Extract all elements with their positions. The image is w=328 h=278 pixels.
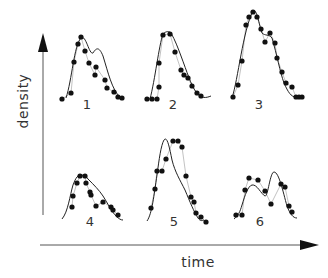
panel-label: 3 (255, 97, 263, 112)
data-point (144, 96, 149, 101)
data-point (115, 212, 120, 217)
data-point (111, 89, 116, 94)
data-point (286, 203, 291, 208)
data-point (272, 40, 277, 45)
data-point (148, 205, 153, 210)
data-point (69, 204, 74, 209)
panel-4: 4 (62, 173, 123, 229)
fit-curve (66, 37, 120, 98)
panel-1: 1 (59, 34, 124, 112)
data-point (246, 14, 251, 19)
data-point (170, 138, 175, 143)
data-point (189, 83, 194, 88)
panel-label: 6 (256, 214, 264, 229)
data-point (71, 59, 76, 64)
plot-canvas: density time 123456 (0, 0, 328, 278)
data-point (243, 22, 248, 27)
fit-curve (234, 172, 297, 219)
data-point (104, 85, 109, 90)
data-point (230, 94, 235, 99)
data-point (154, 96, 159, 101)
data-point (160, 32, 165, 37)
data-point (283, 80, 288, 85)
data-point (289, 84, 294, 89)
data-point (239, 212, 244, 217)
data-point (102, 77, 107, 82)
data-point (267, 30, 272, 35)
data-point (279, 69, 284, 74)
data-point (183, 173, 188, 178)
data-point (198, 214, 203, 219)
data-point (250, 9, 255, 14)
panel-label: 4 (86, 214, 94, 229)
data-point (289, 209, 294, 214)
data-point (239, 58, 244, 63)
data-point (191, 199, 196, 204)
x-axis-label: time (181, 254, 215, 270)
data-point (82, 48, 87, 53)
data-point (154, 168, 159, 173)
data-point (254, 14, 259, 19)
panel-label: 5 (170, 214, 178, 229)
data-point (172, 49, 177, 54)
panel-label: 1 (83, 97, 91, 112)
data-point (246, 175, 251, 180)
data-point (299, 94, 304, 99)
x-axis-arrowhead-icon (300, 240, 319, 250)
data-point (203, 219, 208, 224)
data-point (274, 55, 279, 60)
data-point (93, 203, 98, 208)
data-point (152, 186, 157, 191)
figure: density time 123456 (0, 0, 328, 278)
data-point (262, 39, 267, 44)
data-point (175, 138, 180, 143)
data-point (235, 82, 240, 87)
data-point (92, 72, 97, 77)
data-point (74, 180, 79, 185)
y-axis-arrowhead-icon (38, 33, 48, 52)
data-point (268, 201, 273, 206)
data-point (77, 173, 82, 178)
data-point (156, 84, 161, 89)
data-point (100, 199, 105, 204)
panel-5: 5 (147, 138, 209, 229)
panel-6: 6 (233, 172, 297, 229)
data-point (75, 41, 80, 46)
data-point (156, 60, 161, 65)
data-point (78, 34, 83, 39)
data-connector-line (233, 12, 302, 97)
x-axis: time (40, 240, 319, 270)
data-point (86, 60, 91, 65)
data-point (163, 156, 168, 161)
data-point (258, 26, 263, 31)
data-point (88, 192, 93, 197)
data-point (282, 184, 287, 189)
data-point (167, 31, 172, 36)
data-point (193, 210, 198, 215)
data-point (93, 64, 98, 69)
data-point (178, 67, 183, 72)
data-point (149, 96, 154, 101)
data-point (242, 187, 247, 192)
data-point (198, 93, 203, 98)
data-point (159, 168, 164, 173)
data-connector-line (151, 141, 206, 222)
data-connector-line (147, 34, 201, 99)
data-point (255, 177, 260, 182)
panels: 123456 (59, 9, 304, 229)
panel-2: 2 (144, 31, 211, 112)
data-point (82, 173, 87, 178)
y-axis: density (15, 33, 48, 215)
data-point (262, 188, 267, 193)
data-point (185, 75, 190, 80)
data-point (59, 96, 64, 101)
data-point (110, 207, 115, 212)
data-point (188, 194, 193, 199)
y-axis-label: density (15, 74, 31, 129)
data-point (119, 95, 124, 100)
panel-3: 3 (230, 9, 304, 112)
data-point (233, 212, 238, 217)
data-point (70, 193, 75, 198)
data-point (179, 144, 184, 149)
data-point (83, 180, 88, 185)
